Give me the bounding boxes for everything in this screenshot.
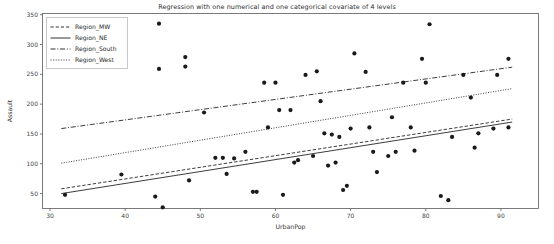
data-point — [491, 126, 495, 130]
data-point — [311, 154, 315, 158]
legend-item-region-south: Region_South — [50, 43, 123, 54]
legend-label-region-west: Region_West — [75, 56, 114, 64]
data-point — [187, 178, 191, 182]
y-tick-label: 50 — [30, 190, 38, 197]
data-point — [157, 22, 161, 26]
data-point — [375, 170, 379, 174]
data-point — [394, 150, 398, 154]
data-point — [390, 115, 394, 119]
legend-item-region-ne: Region_NE — [50, 32, 123, 43]
data-point — [345, 184, 349, 188]
chart-figure: Regression with one numerical and one ca… — [0, 0, 554, 244]
x-tick-label: 70 — [347, 212, 355, 219]
legend-swatch-dashed — [50, 23, 71, 31]
data-point — [473, 146, 477, 150]
data-point — [266, 125, 270, 129]
data-point — [273, 81, 277, 85]
regression-line-region-mw — [61, 119, 512, 189]
data-point — [424, 81, 428, 85]
data-point — [427, 22, 431, 26]
data-point — [469, 95, 473, 99]
x-tick-label: 90 — [497, 212, 505, 219]
x-tick-label: 50 — [196, 212, 204, 219]
data-point — [318, 99, 322, 103]
data-point — [315, 69, 319, 73]
data-point — [476, 131, 480, 135]
data-point — [161, 205, 165, 209]
y-tick-label: 250 — [27, 70, 39, 77]
data-point — [367, 125, 371, 129]
data-point — [157, 67, 161, 71]
data-point — [326, 163, 330, 167]
data-point — [251, 190, 255, 194]
data-point — [439, 194, 443, 198]
legend-swatch-dashdot — [50, 45, 71, 53]
data-point — [225, 172, 229, 176]
data-point — [213, 156, 217, 160]
data-point — [450, 135, 454, 139]
data-point — [292, 160, 296, 164]
x-tick-label: 60 — [272, 212, 280, 219]
y-tick-label: 200 — [27, 100, 39, 107]
x-tick-label: 30 — [46, 212, 54, 219]
data-point — [202, 110, 206, 114]
data-point — [221, 156, 225, 160]
data-point — [506, 125, 510, 129]
data-point — [364, 70, 368, 74]
data-point — [277, 108, 281, 112]
data-point — [288, 108, 292, 112]
data-point — [446, 198, 450, 202]
data-point — [352, 51, 356, 55]
legend-label-region-ne: Region_NE — [75, 34, 107, 42]
data-point — [63, 193, 67, 197]
data-point — [183, 64, 187, 68]
data-point — [119, 172, 123, 176]
data-point — [281, 193, 285, 197]
data-point — [262, 81, 266, 85]
data-point — [333, 160, 337, 164]
data-point — [296, 158, 300, 162]
data-point — [322, 131, 326, 135]
data-point — [303, 73, 307, 77]
data-point — [506, 57, 510, 61]
y-tick-label: 150 — [27, 130, 39, 137]
y-tick-label: 100 — [27, 160, 39, 167]
data-point — [371, 150, 375, 154]
legend-item-region-west: Region_West — [50, 54, 123, 65]
x-tick-label: 40 — [121, 212, 129, 219]
x-axis-title: UrbanPop — [276, 223, 306, 231]
data-point — [337, 135, 341, 139]
data-point — [386, 154, 390, 158]
legend-swatch-dotted — [50, 56, 71, 64]
y-tick-label: 300 — [27, 41, 39, 48]
data-point — [401, 81, 405, 85]
chart-legend: Region_MW Region_NE Region_South Region_… — [46, 17, 128, 69]
data-point — [183, 55, 187, 59]
legend-label-region-mw: Region_MW — [75, 23, 110, 31]
data-point — [420, 57, 424, 61]
y-axis-title: Assault — [6, 99, 13, 122]
regression-line-region-south — [61, 67, 512, 128]
data-point — [330, 132, 334, 136]
data-point — [349, 126, 353, 130]
data-point — [495, 73, 499, 77]
data-point — [153, 194, 157, 198]
data-point — [461, 73, 465, 77]
data-point — [409, 125, 413, 129]
data-point — [412, 149, 416, 153]
data-point — [232, 156, 236, 160]
y-tick-label: 350 — [27, 11, 39, 18]
regression-line-region-west — [61, 89, 512, 164]
legend-label-region-south: Region_South — [75, 45, 117, 53]
x-tick-label: 80 — [422, 212, 430, 219]
data-point — [255, 190, 259, 194]
regression-line-region-ne — [61, 122, 512, 194]
data-point — [341, 188, 345, 192]
legend-item-region-mw: Region_MW — [50, 21, 123, 32]
legend-swatch-solid — [50, 34, 71, 42]
data-point — [243, 150, 247, 154]
